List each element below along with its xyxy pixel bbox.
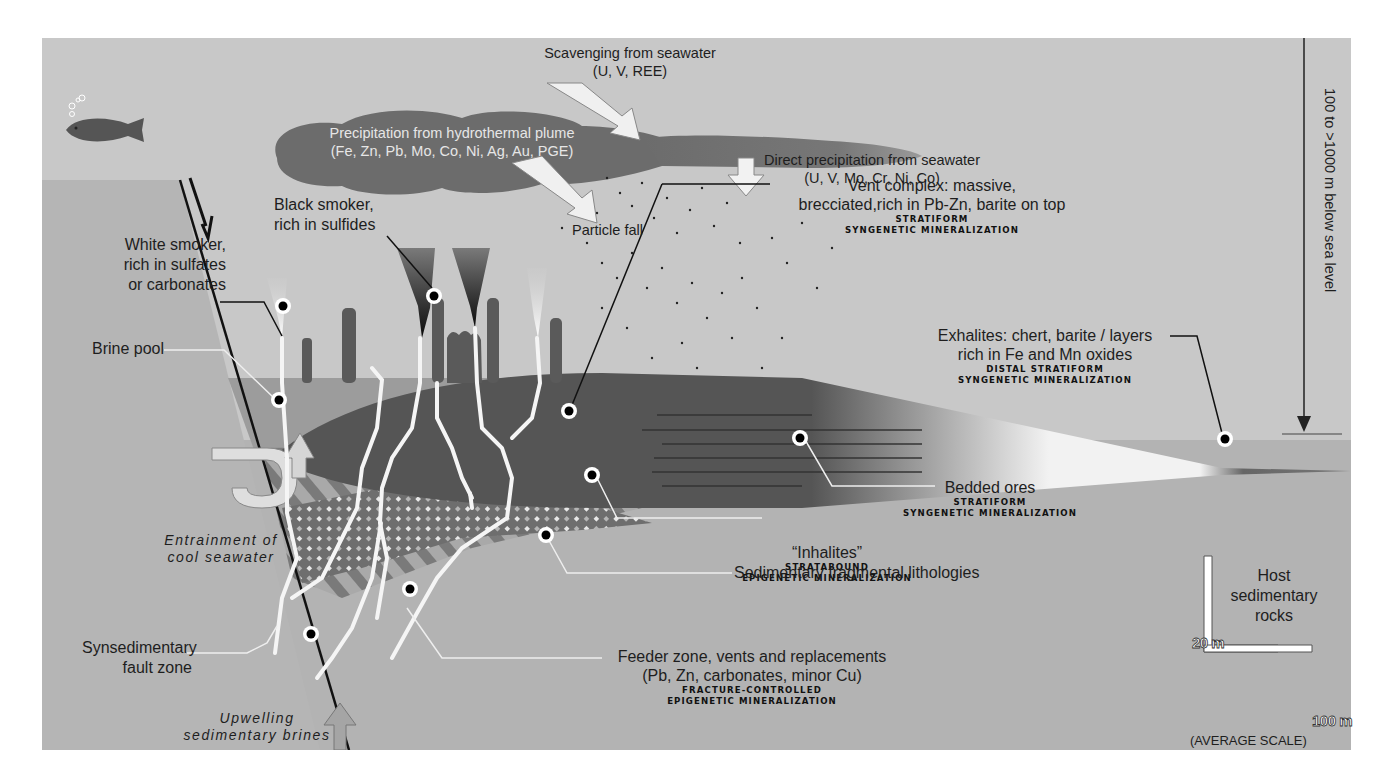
black-smoker-label: Black smoker, rich in sulfides — [274, 195, 375, 235]
upwelling-label: Upwelling sedimentary brines — [172, 710, 342, 744]
cross-section-diagram: Scavenging from seawater (U, V, REE) Pre… — [42, 38, 1351, 750]
scavenging-label: Scavenging from seawater (U, V, REE) — [520, 44, 740, 80]
white-smoker-label: White smoker, rich in sulfates or carbon… — [76, 235, 226, 295]
scale-caption: (AVERAGE SCALE) — [1190, 732, 1307, 750]
plume-label: Precipitation from hydrothermal plume (F… — [302, 124, 602, 160]
depth-label: 100 to >1000 m below sea level — [1322, 88, 1338, 292]
scale-vertical-label: 20 m — [1192, 634, 1224, 651]
vent-complex-label: Vent complex: massive, brecciated,rich i… — [762, 176, 1102, 236]
feeder-zone-label: Feeder zone, vents and replacements (Pb,… — [602, 647, 902, 707]
scale-horizontal-label: 100 m — [1312, 712, 1352, 729]
fault-zone-label: Synsedimentary fault zone — [82, 638, 192, 678]
particle-fall-label: Particle fall — [572, 221, 643, 239]
diagram-artwork — [42, 38, 1351, 750]
bedded-ores-label: Bedded ores STRATIFORM SYNGENETIC MINERA… — [890, 478, 1090, 519]
host-rocks-label: Host sedimentary rocks — [1224, 566, 1324, 626]
brine-pool-label: Brine pool — [92, 340, 164, 358]
entrainment-label: Entrainment of cool seawater — [146, 532, 296, 566]
fragmental-lithologies-label: Sedimentary fragmental lithologies — [734, 564, 979, 582]
exhalites-label: Exhalites: chert, barite / layers rich i… — [920, 326, 1170, 386]
